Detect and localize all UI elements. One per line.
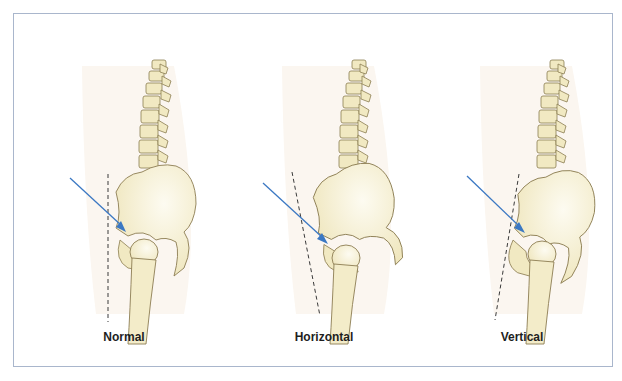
skeleton-horizontal-illustration [224, 14, 424, 368]
skeleton-normal-illustration [24, 14, 224, 368]
panel-horizontal: Horizontal [224, 14, 424, 368]
skeleton-vertical-illustration [422, 14, 622, 368]
panel-label-horizontal: Horizontal [224, 330, 424, 344]
panel-vertical: Vertical [422, 14, 622, 368]
panel-label-normal: Normal [24, 330, 224, 344]
figure-frame: Normal [13, 13, 613, 367]
panel-normal: Normal [24, 14, 224, 368]
panel-label-vertical: Vertical [422, 330, 622, 344]
